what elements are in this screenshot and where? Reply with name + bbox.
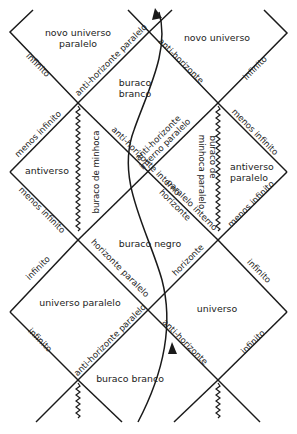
region-buraco-branco-top-2: branco [119,88,152,99]
region-novo-universo-paralelo-2: paralelo [59,38,97,49]
region-buraco-branco-top-1: buraco [119,77,152,88]
line-bottom-4 [218,380,260,422]
label-infinito-left-low: infinito [26,326,54,354]
singularity-bottom-left [76,383,80,418]
label-buraco-de-minhoca: buraco de minhoca [91,131,101,214]
label-infinito-right-mid: infinito [245,257,273,285]
worldline [128,8,177,422]
label-anti-horizonte-top-right: anti-horizonte [156,36,206,86]
label-infinito-right-low: infinito [239,328,267,356]
label-anti-horizonte-paralelo-bottom: anti-horizonte paralelo [72,302,148,378]
region-universo-paralelo: universo paralelo [39,297,121,308]
region-universo: universo [197,303,238,314]
line-lr-up [218,240,287,312]
line-ml-up [10,103,78,172]
label-menos-infinito-left-upper: menos infinito [13,109,63,159]
line-bottom-2 [78,380,122,422]
region-novo-universo: novo universo [184,32,250,43]
region-buraco-branco-bottom: buraco branco [96,373,164,384]
wormhole-singularity-left [76,106,80,231]
arrow-head-top-icon [152,8,162,20]
worldline-curve [128,12,167,422]
edge-labels: infinito anti-horizonte paralelo anti-ho… [13,22,281,378]
arrow-head-mid-icon [168,342,177,354]
label-infinito-top-left: infinito [24,51,52,79]
label-anti-horizonte-bottom: anti-horizonte [160,317,210,367]
region-novo-universo-paralelo-1: novo universo [45,27,111,38]
line-bottom-3 [174,380,218,422]
region-labels: novo universo paralelo novo universo bur… [25,27,274,384]
region-buraco-negro: buraco negro [119,238,182,249]
region-antiverso-paralelo-1: antiverso [230,161,274,172]
label-infinito-left-mid: infinito [24,254,52,282]
label-menos-infinito-right-lower: menos infinito [226,179,276,229]
line-bottom-1 [36,380,78,422]
region-antiverso: antiverso [25,165,69,176]
label-infinito-top-right: infinito [241,54,269,82]
label-buraco-de-minhoca-paralelo-2: minhoca paralelo [197,135,207,209]
singularity-bottom-right [216,383,220,418]
label-menos-infinito-left-lower: menos infinito [17,185,67,235]
penrose-diagram: novo universo paralelo novo universo bur… [0,0,297,434]
label-menos-infinito-right-upper: menos infinito [230,107,280,157]
label-buraco-de-minhoca-paralelo-1: buraco de [208,135,218,178]
region-antiverso-paralelo-2: paralelo [230,172,268,183]
